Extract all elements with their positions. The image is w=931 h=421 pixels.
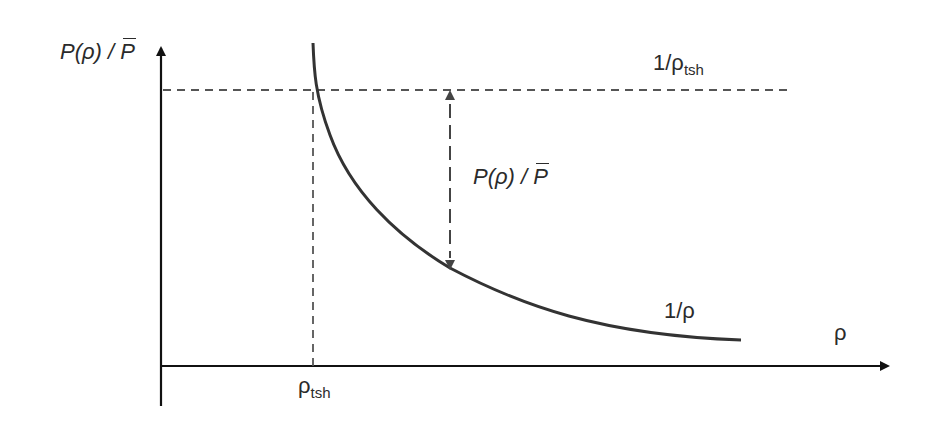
gap-label-pbar: P [533,166,548,188]
gap-arrow-up-head [445,90,455,100]
threshold-x-label: ρtsh [298,375,331,400]
x-axis-label: ρ [834,322,847,344]
gap-label: P(ρ) / P [473,166,548,188]
x-axis-label-text: ρ [834,320,847,345]
curve-label: 1/ρ [664,300,695,322]
inverse-rho-curve [313,43,741,340]
threshold-y-label-base: 1/ρ [653,50,684,75]
threshold-x-label-sub: tsh [311,384,331,401]
threshold-x-label-base: ρ [298,373,311,398]
y-axis-label: P(ρ) / P [60,41,135,63]
threshold-y-label: 1/ρtsh [653,52,704,77]
y-axis-label-pbar: P [120,41,135,63]
y-axis-label-prefix: P(ρ) / [60,39,120,64]
diagram-canvas [0,0,931,421]
gap-label-prefix: P(ρ) / [473,164,533,189]
threshold-y-label-sub: tsh [684,61,704,78]
curve-label-text: 1/ρ [664,298,695,323]
